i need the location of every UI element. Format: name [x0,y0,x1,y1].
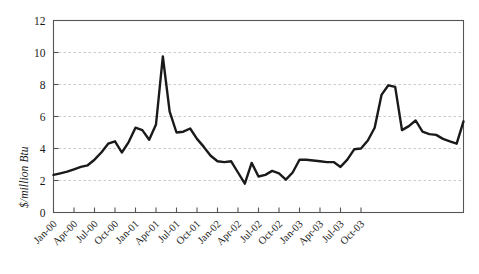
grid-lines [54,53,464,181]
svg-text:2: 2 [40,175,46,187]
svg-text:8: 8 [40,79,46,91]
x-axis-tick-labels: Jan-00Apr-00Jul-00Oct-00Jan-01Apr-01Jul-… [31,218,366,247]
svg-text:4: 4 [40,143,46,155]
svg-text:12: 12 [34,15,46,27]
chart-container: $/million Btu 024681012 Jan-00Apr-00Jul-… [0,0,479,274]
line-chart-plot: 024681012 Jan-00Apr-00Jul-00Oct-00Jan-01… [0,0,479,274]
x-axis-ticks [54,208,362,213]
data-line [54,57,464,184]
y-axis-ticks: 024681012 [34,15,59,219]
svg-text:0: 0 [40,207,46,219]
svg-text:10: 10 [34,47,46,59]
svg-text:6: 6 [40,111,46,123]
